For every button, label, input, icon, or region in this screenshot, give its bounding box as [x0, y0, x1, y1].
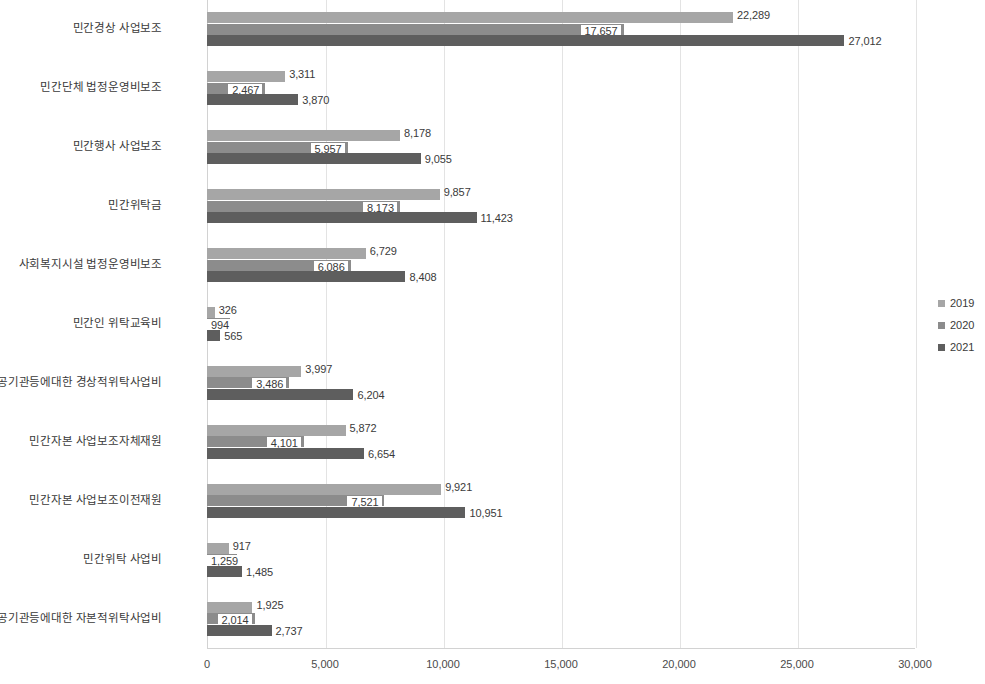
- legend-label-2020: 2020: [950, 319, 974, 331]
- category-row: 민간행사 사업보조8,1785,9579,055: [0, 118, 985, 177]
- legend-label-2021: 2021: [950, 341, 974, 353]
- x-tick-label: 25,000: [780, 658, 814, 670]
- bar-value-2019: 326: [219, 305, 237, 316]
- bar-group: 3,9973,4866,204: [207, 366, 915, 400]
- bar-2021[interactable]: [207, 330, 220, 341]
- bar-value-2019: 5,872: [350, 423, 377, 434]
- bar-2021[interactable]: [207, 271, 405, 282]
- category-row: 민간단체 법정운영비보조3,3112,4673,870: [0, 59, 985, 118]
- category-label: 민간인 위탁교육비: [0, 317, 162, 330]
- bar-value-2021: 2,737: [276, 626, 303, 637]
- bar-group: 22,28917,65727,012: [207, 12, 915, 46]
- bar-2021[interactable]: [207, 153, 421, 164]
- category-label: 민간행사 사업보조: [0, 140, 162, 153]
- legend-label-2019: 2019: [950, 297, 974, 309]
- category-row: 공기관등에대한 자본적위탁사업비1,9252,0142,737: [0, 589, 985, 648]
- bar-2019[interactable]: [207, 543, 229, 554]
- x-tick-label: 20,000: [662, 658, 696, 670]
- bar-value-2019: 22,289: [737, 10, 770, 21]
- category-label: 민간자본 사업보조자체재원: [0, 435, 162, 448]
- bar-2021[interactable]: [207, 35, 844, 46]
- x-tick-label: 30,000: [898, 658, 932, 670]
- category-row: 민간자본 사업보조자체재원5,8724,1016,654: [0, 412, 985, 471]
- bar-chart: 민간경상 사업보조22,28917,65727,012민간단체 법정운영비보조3…: [0, 0, 985, 684]
- x-tick-label: 5,000: [311, 658, 339, 670]
- bar-2019[interactable]: [207, 602, 252, 613]
- x-tick-label: 10,000: [426, 658, 460, 670]
- bar-value-2021: 565: [224, 331, 242, 342]
- category-label: 민간자본 사업보조이전재원: [0, 494, 162, 507]
- bar-2019[interactable]: [207, 248, 366, 259]
- bar-group: 8,1785,9579,055: [207, 130, 915, 164]
- category-row: 민간경상 사업보조22,28917,65727,012: [0, 0, 985, 59]
- bar-group: 9,8578,17311,423: [207, 189, 915, 223]
- x-tick-label: 15,000: [544, 658, 578, 670]
- bar-value-2019: 6,729: [370, 246, 397, 257]
- category-row: 민간위탁 사업비9171,2591,485: [0, 530, 985, 589]
- bar-2021[interactable]: [207, 212, 477, 223]
- bar-2019[interactable]: [207, 189, 440, 200]
- bar-value-2021: 3,870: [302, 95, 329, 106]
- bar-group: 6,7296,0868,408: [207, 248, 915, 282]
- x-axis-line: [207, 648, 915, 649]
- bar-value-2021: 6,654: [368, 449, 395, 460]
- bar-2019[interactable]: [207, 366, 301, 377]
- category-row: 공기관등에대한 경상적위탁사업비3,9973,4866,204: [0, 353, 985, 412]
- bar-2021[interactable]: [207, 507, 465, 518]
- bar-2019[interactable]: [207, 130, 400, 141]
- bar-value-2021: 6,204: [357, 390, 384, 401]
- bar-value-2021: 10,951: [469, 508, 502, 519]
- bar-value-2021: 11,423: [481, 213, 513, 224]
- bar-group: 9,9217,52110,951: [207, 484, 915, 518]
- bar-2019[interactable]: [207, 425, 346, 436]
- bar-group: 3,3112,4673,870: [207, 71, 915, 105]
- category-row: 민간자본 사업보조이전재원9,9217,52110,951: [0, 471, 985, 530]
- bar-value-2019: 917: [233, 541, 251, 552]
- bar-group: 1,9252,0142,737: [207, 602, 915, 636]
- category-label: 민간경상 사업보조: [0, 22, 162, 35]
- category-label: 민간위탁 사업비: [0, 553, 162, 566]
- x-tick-label: 0: [204, 658, 210, 670]
- legend-swatch-2020: [938, 322, 945, 329]
- category-label: 민간위탁금: [0, 199, 162, 212]
- bar-value-2019: 1,925: [256, 600, 283, 611]
- legend: 2019 2020 2021: [938, 292, 985, 358]
- legend-item-2020[interactable]: 2020: [938, 314, 985, 336]
- bar-value-2019: 9,921: [445, 482, 472, 493]
- bar-2021[interactable]: [207, 448, 364, 459]
- legend-item-2021[interactable]: 2021: [938, 336, 985, 358]
- bar-group: 5,8724,1016,654: [207, 425, 915, 459]
- bar-value-2021: 1,485: [246, 567, 273, 578]
- bar-value-2021: 27,012: [848, 36, 881, 47]
- bar-value-2019: 9,857: [444, 187, 471, 198]
- bar-group: 9171,2591,485: [207, 543, 915, 577]
- bar-value-2019: 3,997: [305, 364, 332, 375]
- bar-2019[interactable]: [207, 307, 215, 318]
- legend-item-2019[interactable]: 2019: [938, 292, 985, 314]
- category-row: 사회복지시설 법정운영비보조6,7296,0868,408: [0, 236, 985, 295]
- bar-2021[interactable]: [207, 566, 242, 577]
- bar-value-2021: 9,055: [425, 154, 452, 165]
- bar-2019[interactable]: [207, 12, 733, 23]
- category-row: 민간인 위탁교육비326994565: [0, 295, 985, 354]
- legend-swatch-2019: [938, 300, 945, 307]
- bar-2019[interactable]: [207, 484, 441, 495]
- bar-2021[interactable]: [207, 625, 272, 636]
- bar-value-2021: 8,408: [409, 272, 436, 283]
- bar-2020[interactable]: [207, 24, 624, 35]
- legend-swatch-2021: [938, 344, 945, 351]
- category-label: 사회복지시설 법정운영비보조: [0, 258, 162, 271]
- bar-2019[interactable]: [207, 71, 285, 82]
- bar-2021[interactable]: [207, 94, 298, 105]
- bar-value-2019: 3,311: [289, 69, 315, 80]
- category-label: 공기관등에대한 경상적위탁사업비: [0, 376, 162, 389]
- bar-2021[interactable]: [207, 389, 353, 400]
- bar-value-2019: 8,178: [404, 128, 431, 139]
- category-row: 민간위탁금9,8578,17311,423: [0, 177, 985, 236]
- category-label: 공기관등에대한 자본적위탁사업비: [0, 612, 162, 625]
- bar-group: 326994565: [207, 307, 915, 341]
- category-label: 민간단체 법정운영비보조: [0, 81, 162, 94]
